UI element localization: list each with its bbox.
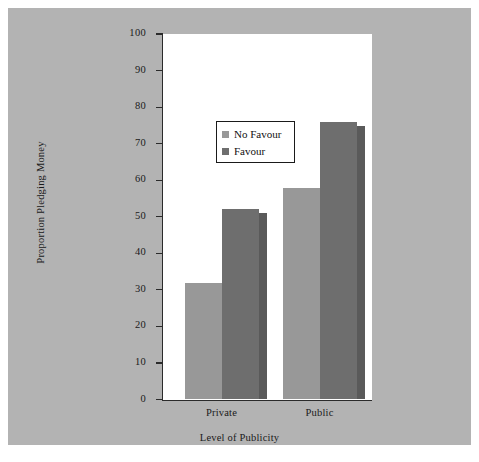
- y-axis-tick-label: 30: [106, 283, 146, 294]
- y-axis-tick-label: 60: [106, 173, 146, 184]
- y-axis-tick-label: 50: [106, 210, 146, 221]
- y-axis-tick-label: 10: [106, 356, 146, 367]
- y-axis-tick: [156, 253, 163, 254]
- y-axis-tick: [156, 143, 163, 144]
- bar-private-no-favour[interactable]: [185, 283, 222, 399]
- y-axis-tick: [156, 216, 163, 217]
- y-axis-tick: [156, 399, 163, 400]
- y-axis-tick: [156, 326, 163, 327]
- y-axis-tick-label: 100: [106, 27, 146, 38]
- y-axis-tick: [156, 289, 163, 290]
- legend-swatch-favour: [222, 148, 229, 155]
- bar-public-favour[interactable]: [320, 122, 357, 400]
- y-axis-tick-label: 70: [106, 137, 146, 148]
- chart-legend: No Favour Favour: [216, 121, 295, 163]
- y-axis-tick: [156, 33, 163, 34]
- y-axis-tick: [156, 70, 163, 71]
- y-axis-tick: [156, 362, 163, 363]
- legend-label-no-favour: No Favour: [234, 129, 281, 140]
- legend-item-no-favour: No Favour: [222, 126, 289, 142]
- x-axis-label-private: Private: [177, 407, 267, 418]
- y-axis-tick: [156, 107, 163, 108]
- y-axis-tick-label: 20: [106, 319, 146, 330]
- y-axis-tick-label: 90: [106, 64, 146, 75]
- bar-shadow: [357, 126, 365, 400]
- legend-item-favour: Favour: [222, 143, 289, 159]
- y-axis-tick-label: 80: [106, 100, 146, 111]
- y-axis-tick-label: 0: [106, 393, 146, 404]
- x-axis-label-public: Public: [275, 407, 365, 418]
- figure-panel: 0102030405060708090100 No Favour Favour …: [8, 8, 471, 445]
- bar-private-favour[interactable]: [222, 209, 259, 399]
- x-axis-line: [162, 400, 372, 401]
- legend-swatch-no-favour: [222, 131, 229, 138]
- y-axis-tick: [156, 180, 163, 181]
- y-axis-tick-label: 40: [106, 246, 146, 257]
- legend-label-favour: Favour: [234, 146, 265, 157]
- bar-shadow: [259, 213, 267, 399]
- bar-public-no-favour[interactable]: [283, 188, 320, 400]
- y-axis-title: Proportion Pledging Money: [35, 118, 46, 288]
- x-axis-title: Level of Publicity: [8, 432, 471, 443]
